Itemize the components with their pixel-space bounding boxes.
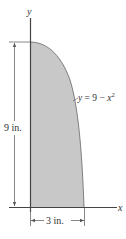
arrow-right-icon xyxy=(80,219,84,222)
equation-lhs: y xyxy=(77,93,83,103)
x-axis-label: x xyxy=(117,202,123,213)
shaded-region xyxy=(30,42,84,207)
y-axis-label: y xyxy=(26,6,32,17)
equation-const: = 9 − xyxy=(85,93,105,103)
arrow-up-icon xyxy=(13,43,16,47)
equation-exponent: 2 xyxy=(111,91,114,98)
arrow-down-icon xyxy=(13,202,16,206)
diagram-canvas: y x 9 in. 3 in. y = 9 − x2 xyxy=(0,0,126,239)
curve-equation-label: y = 9 − x2 xyxy=(77,91,115,103)
height-dimension-label: 9 in. xyxy=(4,122,22,133)
arrow-left-icon xyxy=(31,219,35,222)
width-dimension-label: 3 in. xyxy=(46,215,64,226)
